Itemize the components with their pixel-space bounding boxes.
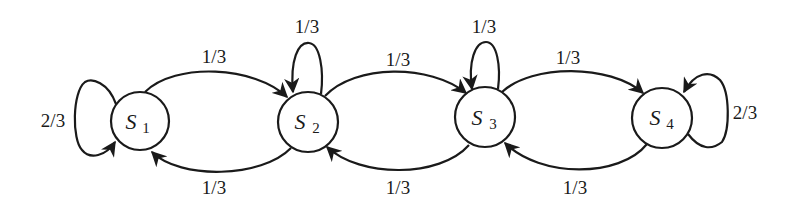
state-label-s1: S [126,109,137,134]
state-node-s2: S 2 [278,92,338,152]
edge-s2-s2 [292,43,322,94]
edge-s1-s1 [75,81,116,156]
edge-s2-s3 [325,72,466,96]
state-subscript-s2: 2 [312,120,320,136]
edge-label-s3-s2: 1/3 [386,177,410,198]
edge-s3-s2 [327,145,469,170]
edge-label-s2-s2: 1/3 [295,16,319,37]
edge-label-s3-s3: 1/3 [472,16,496,37]
state-label-s3: S [472,105,483,130]
edge-label-s1-s1: 2/3 [41,110,65,131]
edge-s2-s1 [152,148,291,172]
edge-label-s2-s3: 1/3 [386,49,410,70]
edge-s3-s4 [502,71,643,93]
edge-s4-s3 [505,143,647,169]
edge-s3-s3 [471,42,499,89]
state-subscript-s1: 1 [142,120,150,136]
state-label-s2: S [295,109,306,134]
state-node-s4: S 4 [632,88,692,148]
state-node-s1: S 1 [111,92,169,150]
state-node-s3: S 3 [455,87,515,147]
markov-chain-diagram: 2/3 1/3 1/3 1/3 1/3 1/3 1/3 1/3 1/3 2/3 … [0,0,799,208]
state-label-s4: S [650,105,661,130]
state-subscript-s4: 4 [666,116,674,132]
state-subscript-s3: 3 [489,116,497,132]
edge-label-s2-s1: 1/3 [202,177,226,198]
edge-label-s4-s3: 1/3 [563,177,587,198]
edge-label-s4-s4: 2/3 [733,102,757,123]
edge-label-s3-s4: 1/3 [556,47,580,68]
edge-s1-s2 [145,72,287,97]
edge-label-s1-s2: 1/3 [202,46,226,67]
